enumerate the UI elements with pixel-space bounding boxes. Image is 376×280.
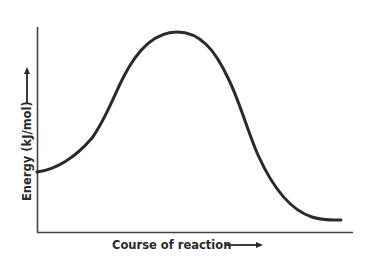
energy-curve	[37, 32, 341, 220]
y-axis-label: Energy (kJ/mol)	[20, 101, 34, 201]
x-axis-label: Course of reaction	[112, 238, 231, 252]
energy-diagram: Course of reaction Energy (kJ/mol)	[0, 0, 376, 280]
y-arrow-icon	[24, 67, 30, 103]
